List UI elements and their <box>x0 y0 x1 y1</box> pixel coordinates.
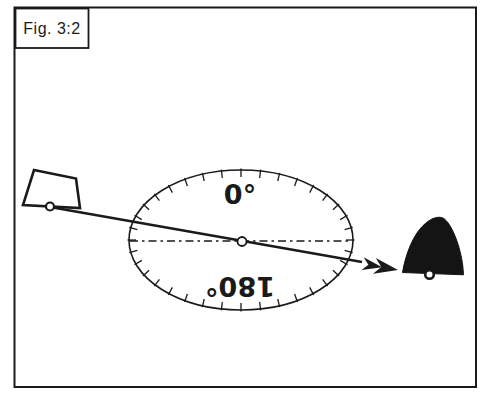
figure-drawing: Fig. 3:2 0° 180° <box>0 0 490 405</box>
figure: Fig. 3:2 0° 180° <box>0 0 490 405</box>
figure-label: Fig. 3:2 <box>23 20 80 37</box>
dial-zero-label: 0° <box>224 179 256 210</box>
target-pivot-circle <box>425 270 434 279</box>
dial-180-label: 180° <box>205 271 275 302</box>
dial-center-marker <box>238 237 247 246</box>
left-object-pivot-circle <box>46 203 54 211</box>
